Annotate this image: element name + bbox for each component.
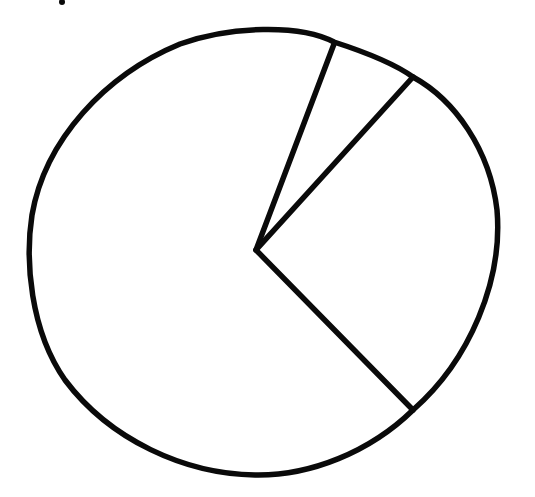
pie-chart bbox=[0, 0, 535, 497]
stray-mark bbox=[59, 0, 65, 5]
pie-outline bbox=[29, 29, 497, 475]
